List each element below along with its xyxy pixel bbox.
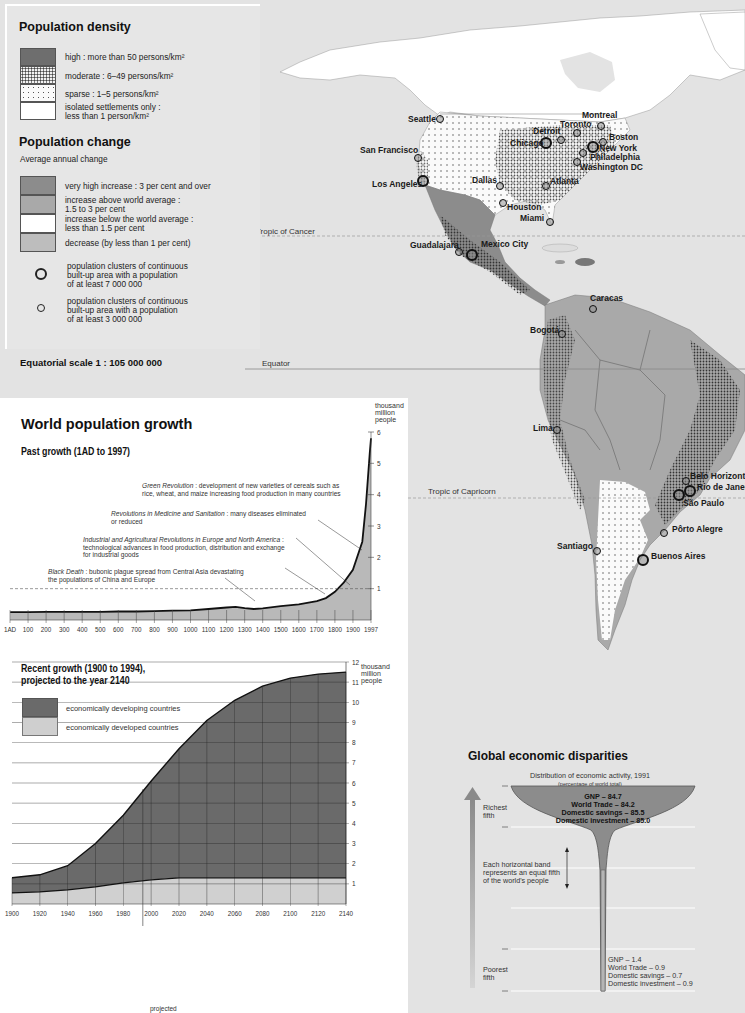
past-xtick: 1000: [183, 626, 198, 633]
small-circle-icon: [37, 304, 45, 312]
large-circle-icon: [35, 268, 47, 280]
legend-label-developed: economically developed countries: [66, 723, 179, 732]
tropic-of-cancer-label: Tropic of Cancer: [256, 227, 315, 236]
past-xtick: 1300: [238, 626, 253, 633]
past-xtick: 600: [113, 626, 124, 633]
city-label: Houston: [507, 202, 541, 212]
cluster7-line3: of at least 7 000 000: [67, 280, 188, 289]
ann-gr-line2: rice, wheat, and maize increasing food p…: [142, 490, 341, 498]
past-xtick: 1900: [346, 626, 361, 633]
city-marker-icon: [660, 529, 668, 537]
city-label: Detroit: [533, 126, 560, 136]
cluster-label-3m: population clusters of continuous built-…: [67, 297, 188, 324]
recent-ytick: 11: [352, 679, 359, 686]
change-swatch-below-average: [20, 214, 56, 233]
past-xtick: 200: [41, 626, 52, 633]
city-label: São Paulo: [683, 498, 724, 508]
change-title: Population change: [19, 135, 131, 149]
recent-subtitle-2: projected to the year 2140: [21, 675, 145, 687]
past-yunit-2: million: [375, 409, 404, 416]
city-marker-icon: [593, 547, 601, 555]
annotation-black-death: Black Death : bubonic plague spread from…: [48, 568, 244, 583]
ann-ind-italic: Industrial and Agricultural Revolutions …: [83, 536, 280, 543]
change-label-above-average: increase above world average : 1.5 to 3 …: [65, 196, 180, 214]
below-line2: less than 1.5 per cent: [65, 224, 193, 233]
recent-xtick: 1980: [116, 910, 131, 917]
city-label: Bogotá: [530, 325, 559, 335]
density-label-isolated: isolated settlements only : less than 1 …: [65, 103, 160, 121]
poorest-investment: Domestic investment – 0.9: [608, 980, 693, 988]
recent-yunit: thousand million people: [361, 663, 390, 684]
poorest-values: GNP – 1.4 World Trade – 0.9 Domestic sav…: [608, 956, 693, 988]
city-label: Philadelphia: [590, 152, 640, 162]
recent-xtick: 2020: [172, 910, 187, 917]
city-label: Mexico City: [481, 239, 528, 249]
band-note: Each horizontal band represents an equal…: [483, 861, 560, 885]
city-label: Lima: [533, 423, 553, 433]
change-swatch-decrease: [20, 233, 56, 252]
annotation-industrial-revolution: Industrial and Agricultural Revolutions …: [83, 536, 285, 559]
past-xtick: 1AD: [4, 626, 17, 633]
tropic-of-capricorn-label: Tropic of Capricorn: [428, 487, 496, 496]
past-ytick: 3: [377, 523, 381, 530]
city-marker-icon: [684, 485, 696, 497]
past-xtick: 1997: [364, 626, 379, 633]
city-label: Chicago: [510, 138, 544, 148]
recent-yunit-1: thousand: [361, 663, 390, 670]
cluster-label-7m: population clusters of continuous built-…: [67, 262, 188, 289]
recent-ytick: 4: [352, 820, 356, 827]
past-xtick: 300: [59, 626, 70, 633]
economic-disparities-panel: Global economic disparities Distribution…: [408, 740, 745, 1013]
density-label-moderate: moderate : 6–49 persons/km²: [65, 72, 173, 81]
change-swatch-above-average: [20, 195, 56, 214]
density-swatch-isolated: [20, 102, 56, 120]
legend-swatch-developed: [22, 717, 58, 736]
city-marker-icon: [589, 305, 597, 313]
recent-ytick: 12: [352, 659, 360, 666]
past-xtick: 1400: [256, 626, 271, 633]
city-marker-icon: [496, 182, 504, 190]
city-marker-icon: [466, 249, 478, 261]
past-xtick: 1500: [274, 626, 289, 633]
past-xtick: 500: [95, 626, 106, 633]
recent-subtitle-1: Recent growth (1900 to 1994),: [21, 663, 145, 675]
city-marker-icon: [573, 129, 581, 137]
change-subtitle: Average annual change: [20, 154, 108, 164]
ann-bd-text: : bubonic plague spread from Central Asi…: [84, 568, 244, 575]
poorest-label-2: fifth: [483, 974, 508, 982]
past-xtick: 900: [167, 626, 178, 633]
city-marker-icon: [436, 115, 444, 123]
ann-ind-text: :: [280, 536, 284, 543]
city-marker-icon: [597, 122, 605, 130]
city-label: Caracas: [590, 293, 623, 303]
recent-ytick: 7: [352, 759, 356, 766]
ann-gr-italic: Green Revolution: [142, 482, 193, 489]
recent-ytick: 6: [352, 780, 356, 787]
annotation-green-revolution: Green Revolution : development of new va…: [142, 482, 341, 497]
city-label: Washington DC: [580, 162, 643, 172]
city-marker-icon: [499, 199, 507, 207]
city-marker-icon: [546, 218, 554, 226]
richest-values: GNP – 84.7 World Trade – 84.2 Domestic s…: [548, 793, 658, 825]
band-note-3: of the world's people: [483, 877, 560, 885]
legend-swatch-developing: [22, 698, 58, 717]
city-label: Boston: [609, 132, 638, 142]
city-label: Buenos Aires: [651, 551, 705, 561]
city-label: Dallas: [472, 175, 497, 185]
city-label: Los Angeles: [372, 179, 422, 189]
ann-bd-italic: Black Death: [48, 568, 84, 575]
city-label: Belo Horizonte: [690, 471, 745, 481]
champagne-glass-chart: [408, 740, 745, 1013]
city-label: San Francisco: [360, 145, 418, 155]
change-label-decrease: decrease (by less than 1 per cent): [65, 239, 190, 248]
city-label: Toronto: [560, 119, 591, 129]
past-ytick: 5: [377, 460, 381, 467]
city-marker-icon: [414, 154, 422, 162]
richest-investment: Domestic investment – 85.0: [548, 817, 658, 825]
equator-label: Equator: [262, 359, 290, 368]
change-label-below-average: increase below the world average : less …: [65, 215, 193, 233]
past-ytick: 6: [377, 429, 381, 436]
density-title: Population density: [19, 20, 131, 34]
city-marker-icon: [682, 477, 690, 485]
recent-yunit-2: million: [361, 670, 390, 677]
